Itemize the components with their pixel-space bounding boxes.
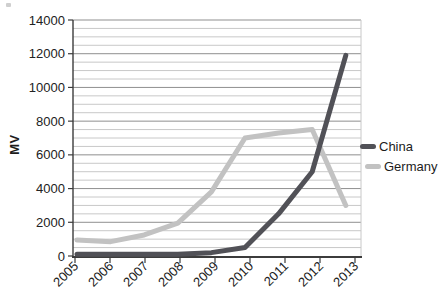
x-tick-label: 2005	[50, 259, 81, 290]
x-tick-label: 2012	[295, 259, 326, 290]
x-tick-label: 2006	[85, 259, 116, 290]
china-series-marker-icon	[360, 144, 376, 149]
legend-label-germany: Germany	[384, 159, 437, 174]
y-tick-label: 0	[58, 249, 65, 264]
y-tick-label: 2000	[36, 215, 65, 230]
germany-series-marker-icon	[365, 164, 381, 169]
y-tick-label: 12000	[29, 46, 65, 61]
y-tick-label: 4000	[36, 181, 65, 196]
legend-item-germany: Germany	[365, 159, 437, 174]
x-tick-label: 2009	[190, 259, 221, 290]
legend: China Germany	[360, 139, 437, 174]
y-tick-label: 14000	[29, 13, 65, 28]
x-tick-label: 2013	[330, 259, 361, 290]
y-axis-title: MV	[7, 134, 22, 155]
solar-installations-line-chart: 0200040006000800010000120001400020052006…	[0, 0, 440, 300]
y-tick-label: 8000	[36, 114, 65, 129]
legend-item-china: China	[360, 139, 437, 154]
y-tick-label: 10000	[29, 80, 65, 95]
x-tick-label: 2007	[120, 259, 151, 290]
x-tick-label: 2010	[225, 259, 256, 290]
x-tick-label: 2008	[155, 259, 186, 290]
legend-label-china: China	[379, 139, 413, 154]
x-tick-label: 2011	[261, 259, 291, 289]
y-tick-label: 6000	[36, 147, 65, 162]
